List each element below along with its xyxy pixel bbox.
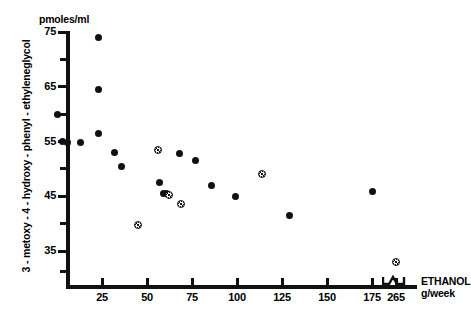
- data-point-hatched-circle: [165, 191, 173, 199]
- data-point-hatched-circle: [134, 221, 142, 229]
- data-point-filled-circle: [208, 182, 215, 189]
- data-point-filled-circle: [192, 157, 199, 164]
- data-point-hatched-circle: [258, 170, 266, 178]
- data-point-filled-circle: [54, 111, 61, 118]
- data-point-filled-circle: [64, 139, 71, 146]
- data-point-filled-circle: [111, 149, 118, 156]
- data-point-filled-circle: [95, 86, 102, 93]
- data-point-filled-circle: [95, 130, 102, 137]
- data-point-filled-circle: [156, 179, 163, 186]
- data-point-filled-circle: [77, 139, 84, 146]
- data-point-filled-circle: [369, 188, 376, 195]
- data-point-filled-circle: [286, 212, 293, 219]
- data-point-filled-circle: [232, 193, 239, 200]
- data-point-hatched-circle: [177, 200, 185, 208]
- data-point-hatched-circle: [392, 258, 400, 266]
- data-point-filled-circle: [118, 163, 125, 170]
- data-points-layer: [0, 0, 471, 323]
- data-point-hatched-circle: [154, 146, 162, 154]
- scatter-plot-figure: pmoles/ml 3 - metoxy - 4 - hydroxy - phe…: [0, 0, 471, 323]
- data-point-filled-circle: [176, 150, 183, 157]
- data-point-filled-circle: [95, 34, 102, 41]
